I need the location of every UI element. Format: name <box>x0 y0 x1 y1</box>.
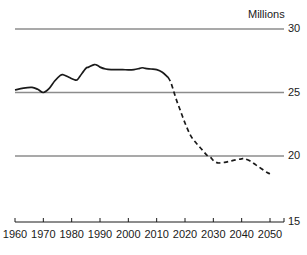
y-axis-tick-label: 15 <box>288 216 300 227</box>
line-chart-canvas <box>0 0 307 255</box>
x-axis-tick-label: 1980 <box>59 229 83 240</box>
x-axis-tick-label: 2000 <box>116 229 140 240</box>
x-axis-tick-label: 2040 <box>229 229 253 240</box>
y-axis-unit-label: Millions <box>248 9 285 20</box>
series-line-historical <box>15 64 168 92</box>
x-axis-tick-label: 1960 <box>3 229 27 240</box>
x-axis-tick-label: 2010 <box>144 229 168 240</box>
gridlines-group <box>15 29 284 156</box>
x-axis-tick-label: 1990 <box>88 229 112 240</box>
y-axis-tick-label: 30 <box>288 23 300 34</box>
x-axis-tick-label: 2050 <box>258 229 282 240</box>
x-axis-group <box>15 218 284 222</box>
series-line-projection <box>168 77 270 174</box>
x-axis-tick-label: 2020 <box>173 229 197 240</box>
chart-container: Millions 15202530 1960197019801990200020… <box>0 0 307 255</box>
y-axis-tick-label: 25 <box>288 87 300 98</box>
y-axis-tick-label: 20 <box>288 150 300 161</box>
data-series-group <box>15 64 270 173</box>
x-axis-tick-label: 2030 <box>201 229 225 240</box>
x-axis-tick-label: 1970 <box>31 229 55 240</box>
